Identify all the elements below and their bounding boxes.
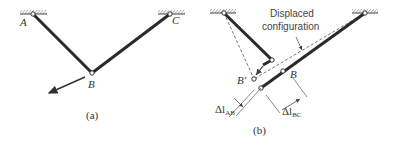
bar-ab-shift-arrow bbox=[256, 66, 263, 75]
label-b: B bbox=[290, 68, 297, 80]
bar-bc bbox=[92, 14, 170, 73]
annotation-leader bbox=[296, 37, 302, 50]
pin-b bbox=[90, 71, 94, 75]
bar-ab bbox=[33, 14, 92, 73]
pin-a bbox=[31, 12, 35, 16]
label-b: B bbox=[88, 78, 95, 90]
pin-b bbox=[281, 69, 285, 73]
label-delta-l-ab: ΔlAB bbox=[215, 103, 235, 117]
label-delta-l-bc: ΔlBC bbox=[282, 105, 302, 119]
pin-right bbox=[363, 11, 367, 15]
annotation-configuration: configuration bbox=[262, 21, 319, 32]
two-bar-truss-figure: A C B (a) Displaced configuration bbox=[0, 0, 394, 154]
load-arrow-icon bbox=[49, 77, 85, 93]
dim-ab-arrow bbox=[234, 98, 243, 107]
dashed-displaced-ab bbox=[224, 13, 254, 79]
pin-b-prime bbox=[252, 77, 256, 81]
figure-a: A C B (a) bbox=[19, 10, 185, 122]
label-b-prime: B' bbox=[237, 74, 247, 86]
label-c: C bbox=[172, 14, 180, 26]
pin-ab-end bbox=[270, 58, 274, 62]
annotation-displaced: Displaced bbox=[270, 8, 314, 19]
diagram-canvas: A C B (a) Displaced configuration bbox=[0, 0, 394, 154]
figure-b: Displaced configuration B' B ΔlAB ΔlBC (… bbox=[210, 8, 378, 137]
pin-left bbox=[222, 11, 226, 15]
caption-b: (b) bbox=[253, 124, 266, 137]
label-a: A bbox=[19, 16, 27, 28]
caption-a: (a) bbox=[86, 109, 99, 122]
